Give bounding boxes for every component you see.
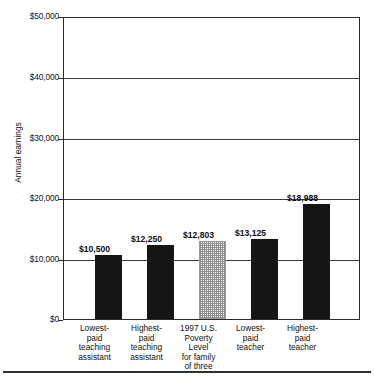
bar-lowest-paid-teaching-assistant[interactable] (95, 255, 122, 319)
category-label-lowest-paid-teaching-assistant: Lowest- paid teaching assistant (68, 324, 121, 362)
category-label-highest-paid-teacher: Highest- paid teacher (276, 324, 329, 353)
gridline-40000 (64, 78, 359, 79)
y-tick-label-50000: $50,000 (1, 12, 59, 21)
category-label-1997-poverty-level: 1997 U.S. Poverty Level for family of th… (172, 324, 225, 372)
bar-highest-paid-teaching-assistant[interactable] (147, 245, 174, 319)
bar-value-lowest-paid-teaching-assistant: $10,500 (69, 244, 120, 254)
bar-value-highest-paid-teaching-assistant: $12,250 (121, 234, 172, 244)
bar-value-lowest-paid-teacher: $13,125 (225, 228, 276, 238)
category-label-lowest-paid-teacher: Lowest- paid teacher (224, 324, 277, 353)
y-tick-mark-0 (58, 320, 63, 321)
bar-1997-poverty-level[interactable] (199, 241, 226, 319)
gridline-30000 (64, 139, 359, 140)
y-tick-label-40000: $40,000 (1, 73, 59, 82)
plot-area (63, 17, 360, 320)
y-tick-label-20000: $20,000 (1, 194, 59, 203)
category-line: teacher (224, 343, 277, 353)
bar-chart-figure: Annual earnings $50,000 $40,000 $30,000 … (0, 0, 374, 382)
category-line: assistant (68, 353, 121, 363)
y-axis-title: Annual earnings (14, 98, 23, 208)
y-tick-label-0: $0 (1, 315, 59, 324)
category-line: assistant (120, 353, 173, 363)
y-tick-label-30000: $30,000 (1, 134, 59, 143)
bar-value-highest-paid-teacher: $18,988 (277, 193, 328, 203)
category-line: teacher (276, 343, 329, 353)
bottom-divider-rule (3, 371, 371, 373)
y-tick-label-10000: $10,000 (1, 255, 59, 264)
bar-lowest-paid-teacher[interactable] (251, 239, 278, 319)
category-label-highest-paid-teaching-assistant: Highest- paid teaching assistant (120, 324, 173, 362)
bar-value-1997-poverty-level: $12,803 (173, 230, 224, 240)
bar-highest-paid-teacher[interactable] (303, 204, 330, 319)
